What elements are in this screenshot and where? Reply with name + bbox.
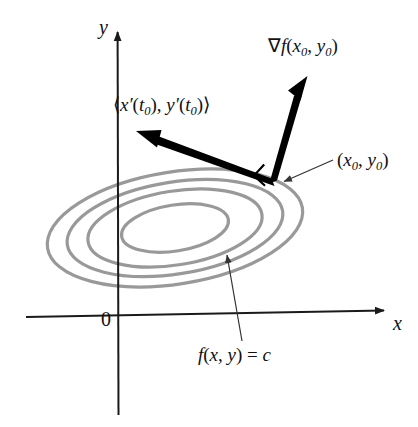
- levelcurve-var1: x: [210, 344, 218, 365]
- level-curves-group: [39, 153, 311, 304]
- tangent-vector: [136, 130, 275, 186]
- tangent-vector-label: ⟨x′(t0), y′(t0)⟩: [113, 95, 210, 118]
- x-axis-label: x: [393, 313, 402, 333]
- gradient-var1: x: [293, 35, 301, 56]
- point-close-paren: ): [382, 149, 388, 170]
- point-var2: y: [368, 149, 376, 170]
- levelcurve-comma: ,: [218, 344, 228, 365]
- levelcurve-equals: =: [242, 344, 262, 365]
- angle-bracket-open-icon: ⟨: [113, 94, 120, 115]
- point-comma: ,: [358, 149, 368, 170]
- x-axis: [26, 311, 384, 318]
- gradient-level-curve-figure: ∇f(x0, y0) ⟨x′(t0), y′(t0)⟩ (x0, y0) f(x…: [0, 0, 418, 427]
- y-axis-label: y: [99, 17, 108, 37]
- levelcurve-constant: c: [263, 344, 271, 365]
- gradient-var2: y: [317, 35, 325, 56]
- tangent-comma: ,: [157, 94, 167, 115]
- angle-bracket-close-icon: ⟩: [203, 94, 210, 115]
- level-curve-outer: [39, 153, 311, 304]
- gradient-vector-label: ∇f(x0, y0): [268, 36, 338, 59]
- level-curve-second: [60, 166, 290, 291]
- point-var1: x: [343, 149, 351, 170]
- gradient-comma: ,: [307, 35, 317, 56]
- level-curve-equation-label: f(x, y) = c: [198, 345, 271, 364]
- level-curve-third: [82, 178, 267, 279]
- level-curve-inner: [118, 197, 232, 259]
- origin-label: 0: [101, 309, 111, 329]
- tangent-var2: y′: [166, 94, 179, 115]
- tangent-point-label: (x0, y0): [337, 150, 389, 173]
- y-axis: [118, 32, 119, 415]
- gradient-vector: [269, 76, 307, 184]
- nabla-icon: ∇: [268, 35, 281, 56]
- point-leader-line: [284, 160, 333, 182]
- levelcurve-var2: y: [228, 344, 236, 365]
- tangent-var1: x′: [120, 94, 133, 115]
- gradient-close-paren: ): [332, 35, 338, 56]
